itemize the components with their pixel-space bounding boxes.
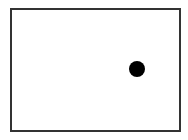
bordered-frame — [10, 8, 181, 132]
black-dot — [129, 61, 145, 77]
